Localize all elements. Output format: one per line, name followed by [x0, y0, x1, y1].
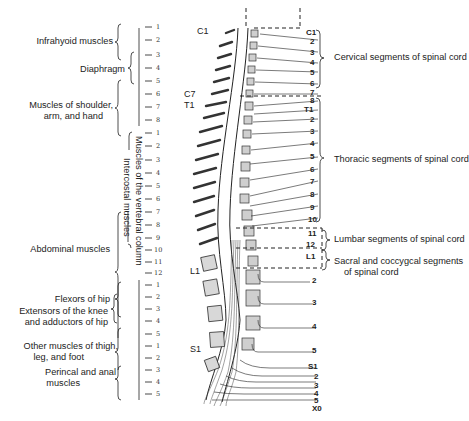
tick-l3: 3	[156, 306, 160, 313]
brace-extensors	[111, 294, 117, 323]
tick-s2: 2	[156, 355, 160, 362]
label-thoracic-segments: Thoracic segments of spinal cord	[334, 154, 469, 165]
cord-t9: 9	[310, 203, 314, 212]
brace-thoracic	[316, 98, 324, 222]
brace-sacral	[322, 250, 330, 270]
label-cervical-segments: Cervical segments of spinal cord	[334, 52, 467, 63]
cord-c6: 6	[310, 79, 314, 88]
label-infrahyoid-muscles: Infrahyoid muscles	[0, 36, 113, 47]
cord-s2: 2	[314, 372, 318, 381]
cord-c1: C1	[306, 28, 316, 37]
tick-c1: 1	[156, 24, 160, 31]
label-abdominal-muscles: Abdominal muscles	[0, 244, 110, 255]
cord-t7: 7	[310, 177, 314, 186]
label-other-muscles-line1: Other muscles of thigh,	[0, 341, 118, 352]
tick-c4: 4	[156, 65, 160, 72]
tick-t9: 9	[156, 235, 160, 242]
vertebra-label-c7: C7	[184, 89, 196, 99]
tick-s4: 4	[156, 379, 160, 386]
cord-c4: 4	[310, 58, 314, 67]
cord-l2: 2	[312, 276, 316, 285]
cord-coccygeal: X0	[312, 404, 322, 413]
cord-t11: 11	[308, 229, 316, 238]
tick-c5: 5	[156, 78, 160, 85]
brace-lumbar	[322, 230, 330, 250]
tick-c8: 8	[156, 117, 160, 124]
cord-l3: 3	[312, 298, 316, 307]
brace-infrahyoid	[115, 24, 121, 60]
label-perineal-line2: muscles	[0, 378, 80, 389]
tick-t2: 2	[156, 143, 160, 150]
cord-t2: 2	[310, 115, 314, 124]
tick-t3: 3	[156, 157, 160, 164]
tick-t11: 11	[154, 259, 162, 266]
tick-s5: 5	[156, 391, 160, 398]
cord-t3: 3	[310, 127, 314, 136]
tick-t5: 5	[156, 183, 160, 190]
label-shoulder-line2: arm, and hand	[0, 111, 103, 122]
tick-l1: 1	[156, 282, 160, 289]
brace-cervical	[316, 30, 324, 88]
label-extensors-line1: Extensors of the knee	[0, 306, 108, 317]
vertebra-label-s1: S1	[190, 344, 201, 354]
label-other-muscles-line2: leg, and foot	[0, 352, 84, 363]
cord-t1: T1	[304, 105, 313, 114]
cord-t12: 12	[306, 240, 315, 249]
tick-c7: 7	[156, 104, 160, 111]
label-sacral-line2: of spinal cord	[344, 267, 399, 278]
label-perineal-line1: Perincal and anal	[0, 367, 116, 378]
label-diaphragm: Diaphragm	[0, 64, 125, 75]
brace-diaphragm	[128, 52, 134, 84]
vertebra-label-t1: T1	[184, 100, 195, 110]
label-intercostal-muscles: Intercostal muscles	[122, 158, 132, 237]
cord-t5: 5	[310, 152, 314, 161]
label-shoulder-line1: Muscles of shoulder,	[0, 100, 113, 111]
tick-t7: 7	[156, 209, 160, 216]
tick-l2: 2	[156, 294, 160, 301]
tick-s3: 3	[156, 367, 160, 374]
cord-c8: 8	[310, 96, 314, 105]
cord-t8: 8	[310, 190, 314, 199]
label-extensors-line2: and adductors of hip	[0, 317, 108, 328]
brace-shoulder	[115, 80, 121, 136]
tick-l5: 5	[156, 331, 160, 338]
tick-t1: 1	[156, 130, 160, 137]
tick-t12: 12	[154, 270, 162, 277]
vertebra-label-l1: L1	[190, 266, 200, 276]
label-lumbar-segments: Lumbar segments of spinal cord	[334, 234, 465, 245]
cord-c3: 3	[310, 48, 314, 57]
brace-abdominal	[115, 212, 121, 338]
cord-s1: S1	[308, 362, 318, 371]
tick-t8: 8	[156, 222, 160, 229]
label-sacral-line1: Sacral and coccygcal segments	[334, 256, 463, 267]
tick-t10: 10	[154, 247, 162, 254]
cord-c2: 2	[310, 37, 314, 46]
tick-t4: 4	[156, 170, 160, 177]
cord-l1: L1	[306, 252, 315, 261]
vertebra-label-c1: C1	[197, 26, 209, 36]
tick-c2: 2	[156, 37, 160, 44]
tick-s1: 1	[156, 343, 160, 350]
cord-t4: 4	[310, 139, 314, 148]
tick-l4: 4	[156, 318, 160, 325]
label-flexors-of-hip: Flexors of hip	[0, 294, 110, 305]
cord-l4: 4	[312, 322, 316, 331]
tick-t6: 6	[156, 196, 160, 203]
tick-c6: 6	[156, 91, 160, 98]
cord-t10: 10	[308, 215, 317, 224]
cord-c5: 5	[310, 68, 314, 77]
tick-c3: 3	[156, 52, 160, 59]
cord-t6: 6	[310, 165, 314, 174]
label-vertebral-column-muscles: Muscles of the vertebral column	[134, 136, 144, 266]
cord-l5: 5	[312, 346, 316, 355]
